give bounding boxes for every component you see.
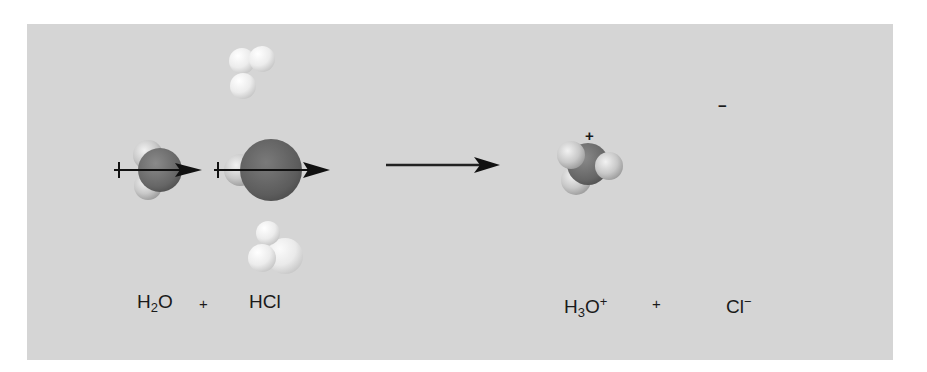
water-molecule-top (229, 46, 275, 99)
hydronium-charge: + (585, 128, 594, 143)
formula-subscript: 2 (151, 300, 158, 315)
label-hydronium: H3O+ (564, 291, 607, 324)
formula-part: Cl (726, 296, 744, 317)
formula-part: H (137, 291, 151, 312)
label-hcl: HCl (249, 291, 281, 313)
formula-subscript: 3 (578, 305, 585, 320)
plus-sign-1: + (199, 293, 208, 315)
formula-part: O (585, 296, 600, 317)
hydronium-ion (557, 141, 623, 195)
formula-part: H (564, 296, 578, 317)
label-chloride: Cl− (726, 291, 752, 318)
formula-superscript: − (744, 294, 752, 309)
chloride-charge: − (718, 98, 727, 113)
plus-sign-2: + (652, 293, 661, 315)
reaction-arrow-molecules (386, 157, 500, 173)
water-molecule-bottom (248, 221, 303, 274)
label-water: H2O (137, 291, 173, 319)
formula-part: O (158, 291, 173, 312)
formula-superscript: + (600, 294, 608, 309)
